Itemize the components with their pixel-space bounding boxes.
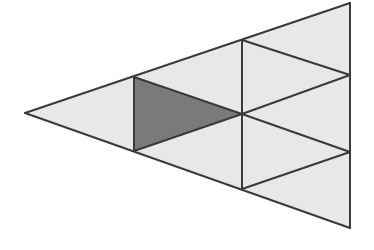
triangle-cell <box>25 77 134 151</box>
triangle-fills <box>25 3 350 228</box>
triangle-diagram <box>0 0 374 250</box>
